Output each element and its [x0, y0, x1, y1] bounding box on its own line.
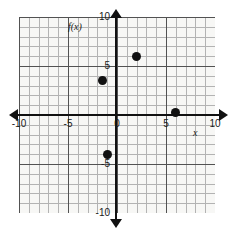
- coordinate-plane-figure: f(x) x -10-55100 105-5-10: [0, 0, 233, 237]
- x-tick-label: 5: [152, 119, 180, 129]
- y-axis-up-arrow-icon: [110, 9, 122, 18]
- y-tick-label: 5: [0, 61, 110, 71]
- y-tick-label: 10: [0, 12, 110, 22]
- data-point: [132, 52, 141, 61]
- x-tick-label: 10: [201, 119, 229, 129]
- data-point: [98, 76, 107, 85]
- data-point: [103, 150, 112, 159]
- y-axis-label: f(x): [68, 22, 82, 32]
- y-tick-label: -10: [0, 208, 110, 218]
- x-tick-label: -10: [5, 119, 33, 129]
- y-tick-label: -5: [0, 159, 110, 169]
- x-axis-label: x: [193, 128, 197, 138]
- y-axis-line: [115, 12, 117, 222]
- x-tick-label: -5: [54, 119, 82, 129]
- x-axis-line: [12, 114, 222, 116]
- origin-tick-label: 0: [103, 119, 131, 129]
- data-point: [171, 108, 180, 117]
- y-axis-down-arrow-icon: [110, 219, 122, 228]
